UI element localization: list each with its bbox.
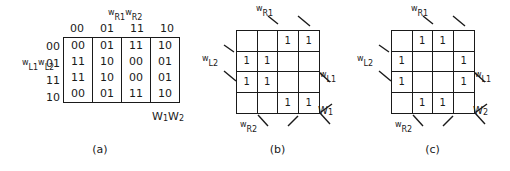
label-sub: R1 <box>263 9 274 18</box>
row-header: 10 <box>40 89 60 106</box>
kmap-c-label-right: wL1 <box>475 70 491 84</box>
table-cell: 00 <box>122 70 151 86</box>
kmap-cell: 1 <box>258 52 279 73</box>
column-header: 10 <box>152 22 182 35</box>
truth-table-column-group-label: wR1wR2 <box>108 8 142 22</box>
col-group-w1-sub: R1 <box>115 13 126 22</box>
kmap-cell: 1 <box>454 52 475 73</box>
kmap-cell <box>392 31 413 52</box>
table-cell: 11 <box>64 54 93 70</box>
kmap-b-label-top: wR1 <box>256 4 273 18</box>
kmap-cell <box>433 52 454 73</box>
table-cell: 11 <box>122 86 151 103</box>
kmap-cell: 1 <box>258 72 279 93</box>
kmap-cell: 1 <box>237 52 258 73</box>
kmap-cell <box>413 72 434 93</box>
kmap-b-grid: 1 1 1 1 1 1 1 1 <box>236 30 320 114</box>
kmap-b-label-output: W1 <box>318 105 333 117</box>
table-cell: 00 <box>64 86 93 103</box>
kmap-cell: 1 <box>433 93 454 114</box>
table-cell: 10 <box>151 86 180 103</box>
kmap-c-label-bottom: wR2 <box>395 120 412 134</box>
table-row: 00 01 11 10 <box>64 38 180 55</box>
label-sub: L1 <box>482 75 492 84</box>
truth-table-output-label: W1W2 <box>152 110 184 123</box>
kmap-c-grid: 1 1 1 1 1 1 1 1 <box>391 30 475 114</box>
table-cell: 00 <box>122 54 151 70</box>
row-header: 11 <box>40 72 60 89</box>
label-sub: 2 <box>483 108 488 117</box>
truth-table-row-headers: 00 01 11 10 <box>40 38 60 106</box>
figure-container: wR1wR2 wL1wL2 00 01 11 10 00 01 11 10 00 <box>0 0 510 171</box>
table-cell: 01 <box>151 54 180 70</box>
label-prefix: W <box>318 105 328 116</box>
kmap-cell <box>299 72 320 93</box>
kmap-cell: 1 <box>237 72 258 93</box>
kmap-c-label-output: W2 <box>473 105 488 117</box>
label-sub: L2 <box>364 59 374 68</box>
kmap-cell: 1 <box>433 31 454 52</box>
panel-c-kmap: 1 1 1 1 1 1 1 1 wR1 wL2 wL1 wR2 W2 (c) <box>355 0 510 171</box>
panel-caption: (b) <box>200 143 355 156</box>
kmap-b-label-right: wL1 <box>320 70 336 84</box>
table-row: 11 10 00 01 <box>64 70 180 86</box>
kmap-c-label-top: wR1 <box>411 4 428 18</box>
table-cell: 01 <box>93 86 122 103</box>
label-prefix: W <box>473 105 483 116</box>
table-cell: 11 <box>64 70 93 86</box>
truth-table-grid: 00 01 11 10 11 10 00 01 11 10 00 01 <box>63 37 180 103</box>
kmap-b-label-left: wL2 <box>202 54 218 68</box>
label-sub: R2 <box>247 125 258 134</box>
panel-b-kmap: 1 1 1 1 1 1 1 1 wR1 wL2 wL1 wR2 W1 (b) <box>200 0 355 171</box>
kmap-cell <box>278 52 299 73</box>
panel-a-truth-table: wR1wR2 wL1wL2 00 01 11 10 00 01 11 10 00 <box>0 0 200 171</box>
column-header: 00 <box>62 22 92 35</box>
label-sub: 1 <box>328 108 333 117</box>
kmap-cell: 1 <box>278 93 299 114</box>
table-cell: 10 <box>93 70 122 86</box>
table-cell: 10 <box>93 54 122 70</box>
column-header: 01 <box>92 22 122 35</box>
output-w1-prefix: W <box>152 110 163 123</box>
table-cell: 11 <box>122 38 151 55</box>
table-cell: 10 <box>151 38 180 55</box>
kmap-cell: 1 <box>413 31 434 52</box>
kmap-cell: 1 <box>454 72 475 93</box>
label-sub: L2 <box>209 59 219 68</box>
kmap-cell: 1 <box>299 93 320 114</box>
output-w2-prefix: W <box>168 110 179 123</box>
truth-table-wrap: wR1wR2 wL1wL2 00 01 11 10 00 01 11 10 00 <box>0 0 200 140</box>
kmap-cell <box>237 93 258 114</box>
label-sub: L1 <box>327 75 337 84</box>
table-cell: 01 <box>151 70 180 86</box>
table-cell: 01 <box>93 38 122 55</box>
truth-table-column-headers: 00 01 11 10 <box>62 22 182 35</box>
kmap-cell <box>454 31 475 52</box>
label-sub: R1 <box>418 9 429 18</box>
kmap-cell <box>258 31 279 52</box>
kmap-cell <box>454 93 475 114</box>
kmap-cell <box>433 72 454 93</box>
kmap-cell <box>392 93 413 114</box>
panel-caption: (a) <box>0 143 200 156</box>
output-w2-sub: 2 <box>179 114 184 123</box>
kmap-cell <box>278 72 299 93</box>
kmap-cell <box>299 52 320 73</box>
column-header: 11 <box>122 22 152 35</box>
kmap-c-label-left: wL2 <box>357 54 373 68</box>
kmap-cell: 1 <box>392 72 413 93</box>
kmap-cell <box>258 93 279 114</box>
kmap-cell <box>413 52 434 73</box>
col-group-w2-sub: R2 <box>132 13 143 22</box>
kmap-cell: 1 <box>392 52 413 73</box>
panel-caption: (c) <box>355 143 510 156</box>
kmap-cell: 1 <box>413 93 434 114</box>
table-cell: 00 <box>64 38 93 55</box>
kmap-cell: 1 <box>278 31 299 52</box>
row-group-w1-sub: L1 <box>29 63 39 72</box>
table-row: 11 10 00 01 <box>64 54 180 70</box>
row-header: 00 <box>40 38 60 55</box>
label-sub: R2 <box>402 125 413 134</box>
kmap-cell: 1 <box>299 31 320 52</box>
kmap-cell <box>237 31 258 52</box>
